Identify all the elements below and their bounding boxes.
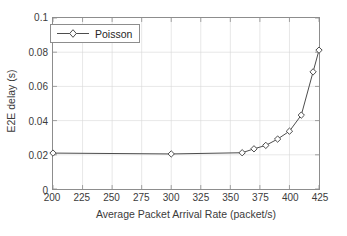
legend-line-marker-icon: [56, 28, 90, 39]
chart-legend[interactable]: Poisson: [50, 24, 140, 43]
x-tick-label: 350: [222, 192, 239, 203]
data-series-layer: [53, 18, 319, 189]
y-axis-title: E2E delay (s): [5, 46, 17, 156]
series-poisson: [50, 47, 322, 157]
x-tick-label: 200: [44, 192, 61, 203]
y-tick-label: 0.02: [29, 150, 48, 161]
x-tick-label: 250: [103, 192, 120, 203]
legend-label: Poisson: [95, 28, 132, 40]
x-tick-label: 400: [282, 192, 299, 203]
y-tick-label: 0.06: [29, 81, 48, 92]
y-tick-label: 0.1: [34, 12, 48, 23]
x-tick-label: 425: [312, 192, 329, 203]
x-axis-title: Average Packet Arrival Rate (packet/s): [52, 208, 320, 220]
x-tick-label: 375: [252, 192, 269, 203]
legend-entry-poisson[interactable]: Poisson: [56, 28, 132, 40]
y-tick-label: 0.08: [29, 46, 48, 57]
x-axis-tick-labels: 200225250275300325350375400425: [52, 192, 320, 206]
x-tick-label: 275: [133, 192, 150, 203]
chart-figure: 00.020.040.060.080.1 E2E delay (s) Poiss…: [0, 0, 347, 236]
x-tick-label: 300: [163, 192, 180, 203]
x-tick-label: 325: [193, 192, 210, 203]
x-tick-label: 225: [73, 192, 90, 203]
y-tick-label: 0.04: [29, 115, 48, 126]
